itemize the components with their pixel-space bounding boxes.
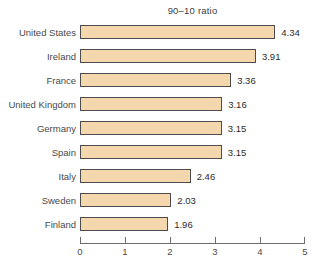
chart-title: 90–10 ratio: [80, 4, 305, 20]
category-label: Germany: [0, 123, 80, 134]
x-axis-tick-labels: 012345: [80, 244, 305, 258]
bar: [80, 169, 191, 183]
category-label: Ireland: [0, 51, 80, 62]
x-axis-tick: [260, 237, 261, 243]
bar: [80, 73, 231, 87]
bar-track: 3.16: [80, 97, 305, 111]
bar: [80, 49, 256, 63]
x-axis-tick-label: 0: [77, 246, 82, 257]
bar-track: 3.91: [80, 49, 305, 63]
bar-rows: United States4.34Ireland3.91France3.36Un…: [0, 20, 313, 236]
bar: [80, 25, 275, 39]
bar-row: United States4.34: [0, 20, 313, 44]
category-label: United States: [0, 27, 80, 38]
category-label: Sweden: [0, 195, 80, 206]
value-label: 2.03: [177, 195, 196, 206]
x-axis-tick: [170, 237, 171, 243]
value-label: 3.36: [237, 75, 256, 86]
value-label: 3.91: [262, 51, 281, 62]
bar-row: Germany3.15: [0, 116, 313, 140]
category-label: United Kingdom: [0, 99, 80, 110]
x-axis-tick-label: 5: [302, 246, 307, 257]
value-label: 3.15: [228, 147, 247, 158]
bar-row: Ireland3.91: [0, 44, 313, 68]
x-axis-tick-label: 1: [122, 246, 127, 257]
x-axis-tick: [215, 237, 216, 243]
value-label: 3.16: [228, 99, 247, 110]
bar-chart: 90–10 ratio United States4.34Ireland3.91…: [0, 0, 313, 274]
bar-row: Sweden2.03: [0, 188, 313, 212]
value-label: 1.96: [174, 219, 193, 230]
category-label: Italy: [0, 171, 80, 182]
bar-row: France3.36: [0, 68, 313, 92]
bar-row: Italy2.46: [0, 164, 313, 188]
x-axis-tick-label: 3: [212, 246, 217, 257]
bar: [80, 193, 171, 207]
value-label: 2.46: [197, 171, 216, 182]
category-label: Spain: [0, 147, 80, 158]
bar-track: 3.36: [80, 73, 305, 87]
x-axis-tick: [125, 237, 126, 243]
bar-row: United Kingdom3.16: [0, 92, 313, 116]
x-axis: [80, 236, 305, 244]
x-axis-tick-label: 2: [167, 246, 172, 257]
bar-track: 3.15: [80, 121, 305, 135]
bar: [80, 121, 222, 135]
bar-row: Spain3.15: [0, 140, 313, 164]
value-label: 3.15: [228, 123, 247, 134]
bar-track: 2.03: [80, 193, 305, 207]
x-axis-tick-label: 4: [257, 246, 262, 257]
category-label: France: [0, 75, 80, 86]
bar-track: 1.96: [80, 217, 305, 231]
bar: [80, 97, 222, 111]
category-label: Finland: [0, 219, 80, 230]
bar-track: 4.34: [80, 25, 305, 39]
x-axis-tick: [80, 237, 81, 243]
value-label: 4.34: [281, 27, 300, 38]
bar-track: 3.15: [80, 145, 305, 159]
bar: [80, 217, 168, 231]
x-axis-tick: [304, 237, 305, 243]
bar-row: Finland1.96: [0, 212, 313, 236]
bar: [80, 145, 222, 159]
bar-track: 2.46: [80, 169, 305, 183]
